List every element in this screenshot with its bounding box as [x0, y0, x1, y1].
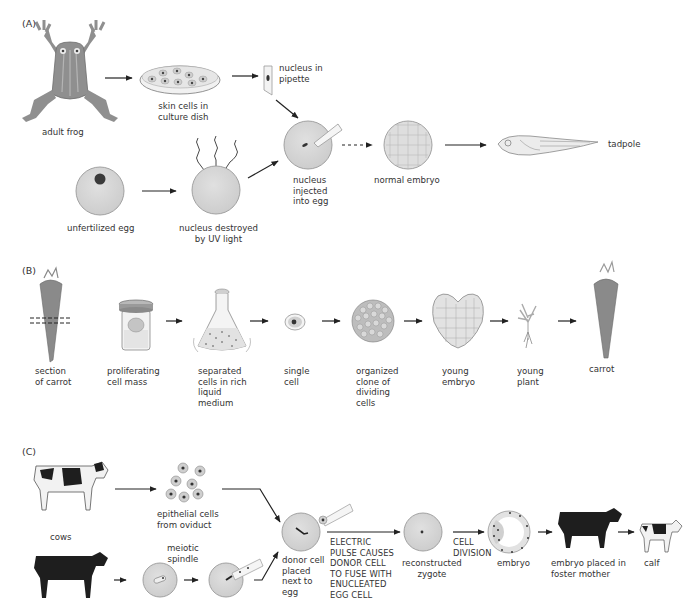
culture-dish: [140, 66, 220, 94]
label-young-plant: young plant: [517, 366, 544, 387]
label-nucleus-pipette: nucleus in pipette: [279, 63, 323, 84]
label-proliferating: proliferating cell mass: [107, 366, 160, 387]
label-embryo: embryo: [497, 558, 530, 569]
pipette: [264, 66, 272, 95]
tadpole: [498, 136, 598, 155]
label-normal-embryo: normal embryo: [374, 175, 440, 186]
label-tadpole: tadpole: [608, 139, 640, 150]
label-separated-cells: separated cells in rich liquid medium: [198, 366, 247, 408]
label-epithelial: epithelial cells from oviduct: [157, 509, 219, 530]
black-cow: [34, 552, 108, 598]
label-cell-division: CELL DIVISION: [453, 537, 492, 558]
label-skin-cells: skin cells in culture dish: [158, 101, 209, 122]
label-nucleus-destroyed: nucleus destroyed by UV light: [179, 223, 258, 244]
young-plant: [518, 304, 536, 348]
reconstructed-zygote: [404, 513, 442, 551]
proliferating-jar: [119, 300, 153, 350]
carrot-grown: [594, 262, 618, 358]
cell-clone: [352, 300, 394, 342]
label-single-cell: single cell: [284, 366, 309, 387]
figure-artwork: [0, 0, 700, 598]
egg-with-spindle: [143, 563, 177, 597]
label-section-carrot: section of carrot: [35, 366, 71, 387]
label-unfertilized-egg: unfertilized egg: [67, 223, 134, 234]
holstein-cow: [34, 462, 108, 510]
label-carrot: carrot: [589, 364, 614, 375]
normal-embryo: [384, 121, 432, 169]
injected-egg: [284, 121, 342, 169]
label-foster-mother: embryo placed in foster mother: [551, 558, 626, 579]
frog-illustration: [22, 20, 118, 122]
uv-treated-egg: [192, 136, 240, 214]
label-adult-frog: adult frog: [42, 127, 84, 138]
label-cows: cows: [50, 532, 72, 543]
label-meiotic-spindle: meiotic spindle: [167, 543, 199, 564]
flask: [194, 289, 251, 352]
carrot-section: [30, 268, 72, 362]
blastocyst: [488, 511, 530, 553]
panel-b-label: (B): [22, 265, 36, 276]
label-donor-cell: donor cell placed next to egg: [282, 555, 324, 597]
label-nucleus-injected: nucleus injected into egg: [293, 175, 328, 207]
egg-enucleation: [209, 559, 263, 597]
unfertilized-egg: [76, 167, 124, 215]
foster-cow: [558, 508, 622, 548]
calf: [640, 520, 682, 552]
label-calf: calf: [644, 558, 659, 569]
panel-a-label: (A): [22, 18, 36, 29]
panel-c-label: (C): [22, 446, 36, 457]
epithelial-cells: [166, 463, 205, 502]
label-young-embryo: young embryo: [442, 366, 475, 387]
label-reconstructed-zygote: reconstructed zygote: [402, 558, 462, 579]
single-cell: [285, 314, 305, 330]
label-electric-pulse: ELECTRIC PULSE CAUSES DONOR CELL TO FUSE…: [330, 537, 394, 598]
label-organized-clone: organized clone of dividing cells: [356, 366, 398, 408]
heart-embryo: [433, 294, 484, 348]
